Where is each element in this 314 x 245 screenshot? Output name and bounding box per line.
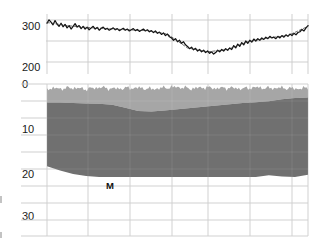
bottom-panel bbox=[0, 78, 314, 245]
edge-artifact-lower bbox=[0, 232, 2, 238]
lower-basement-layer bbox=[47, 98, 308, 177]
moho-marker-label: M bbox=[106, 181, 114, 190]
figure-root: 300 200 0 10 20 30 M bbox=[0, 0, 314, 245]
bottom-panel-svg bbox=[0, 78, 314, 245]
top-panel bbox=[0, 0, 314, 80]
record-primary bbox=[47, 20, 308, 54]
top-panel-svg bbox=[0, 0, 314, 80]
edge-artifact-upper bbox=[0, 196, 2, 203]
